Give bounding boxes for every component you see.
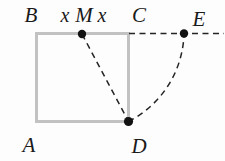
- point-dot-D: [124, 117, 133, 126]
- label-E: E: [192, 7, 206, 31]
- square-outline: [37, 34, 129, 122]
- point-dot-M: [78, 30, 86, 38]
- label-D: D: [130, 134, 146, 158]
- label-C: C: [132, 3, 147, 27]
- label-M: M: [74, 3, 94, 27]
- geometry-canvas: B x M x C E A D: [0, 0, 225, 161]
- geometry-figure: B x M x C E A D: [0, 0, 225, 161]
- point-dot-E: [180, 29, 188, 37]
- arc-D-E: [129, 34, 185, 122]
- label-B: B: [25, 3, 38, 27]
- label-A: A: [21, 133, 36, 157]
- label-tick-left: x: [60, 4, 70, 26]
- segment-M-D: [82, 34, 129, 122]
- label-tick-right: x: [97, 4, 107, 26]
